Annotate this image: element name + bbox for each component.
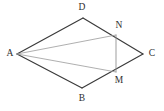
- vertex-label-b: B: [79, 93, 85, 103]
- geometry-canvas: DNACMB: [0, 0, 164, 111]
- segment-a-m: [17, 54, 116, 72]
- segment-a-b: [17, 54, 82, 88]
- vertex-label-a: A: [7, 48, 14, 58]
- edges-group: [17, 18, 143, 88]
- segment-a-d: [17, 18, 83, 54]
- geometry-figure: DNACMB: [0, 0, 164, 111]
- vertex-label-m: M: [115, 75, 124, 85]
- vertex-label-c: C: [149, 48, 155, 58]
- segment-a-n: [17, 35, 116, 54]
- segment-d-c: [83, 18, 143, 54]
- vertex-label-n: N: [116, 20, 123, 30]
- vertex-label-d: D: [79, 2, 86, 12]
